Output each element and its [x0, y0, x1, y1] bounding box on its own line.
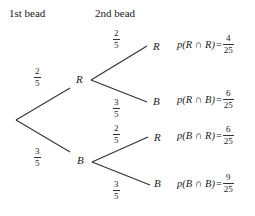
result-label: p(R ∩ R)	[177, 39, 215, 50]
result-B-and-R: p(B ∩ R) = 6 25	[177, 125, 234, 146]
equals-sign: =	[216, 94, 222, 105]
result-label: p(B ∩ B)	[177, 178, 215, 189]
prob-R-B: 3 5	[113, 98, 120, 119]
prob-1st-R: 2 5	[34, 67, 41, 88]
denominator: 5	[113, 108, 120, 119]
branch-1st-R	[16, 88, 70, 120]
prob-B-B: 3 5	[113, 180, 120, 201]
result-R-and-R: p(R ∩ R) = 4 25	[177, 34, 234, 55]
denominator: 5	[34, 157, 41, 168]
numerator: 9	[225, 173, 232, 183]
header-first-bead: 1st bead	[9, 7, 45, 19]
prob-1st-B: 3 5	[34, 147, 41, 168]
equals-sign: =	[216, 130, 222, 141]
node-1st-R: R	[76, 73, 83, 85]
result-fraction: 4 25	[223, 34, 234, 55]
prob-B-R: 2 5	[113, 124, 120, 145]
equals-sign: =	[216, 39, 222, 50]
numerator: 2	[34, 67, 41, 77]
denominator: 25	[223, 44, 234, 55]
numerator: 4	[225, 34, 232, 44]
denominator: 25	[223, 99, 234, 110]
equals-sign: =	[216, 178, 222, 189]
branch-B-R	[92, 137, 148, 162]
numerator: 6	[225, 125, 232, 135]
result-B-and-B: p(B ∩ B) = 9 25	[177, 173, 234, 194]
numerator: 2	[113, 29, 120, 39]
leaf-B-B: B	[154, 177, 161, 189]
denominator: 5	[113, 134, 120, 145]
prob-R-R: 2 5	[113, 29, 120, 50]
denominator: 5	[113, 39, 120, 50]
result-R-and-B: p(R ∩ B) = 6 25	[177, 89, 234, 110]
numerator: 3	[113, 180, 120, 190]
numerator: 6	[225, 89, 232, 99]
result-fraction: 6 25	[223, 89, 234, 110]
result-label: p(B ∩ R)	[177, 130, 215, 141]
header-second-bead: 2nd bead	[95, 7, 135, 19]
branch-B-B	[92, 162, 150, 185]
leaf-R-B: B	[153, 95, 160, 107]
result-fraction: 9 25	[223, 173, 234, 194]
denominator: 5	[113, 190, 120, 201]
leaf-R-R: R	[153, 40, 160, 52]
numerator: 3	[34, 147, 41, 157]
branch-R-R	[91, 46, 147, 80]
denominator: 25	[223, 135, 234, 146]
result-label: p(R ∩ B)	[177, 94, 215, 105]
branch-1st-B	[16, 120, 70, 152]
result-fraction: 6 25	[223, 125, 234, 146]
leaf-B-R: R	[154, 131, 161, 143]
numerator: 3	[113, 98, 120, 108]
numerator: 2	[113, 124, 120, 134]
node-1st-B: B	[77, 154, 84, 166]
denominator: 25	[223, 183, 234, 194]
denominator: 5	[34, 77, 41, 88]
